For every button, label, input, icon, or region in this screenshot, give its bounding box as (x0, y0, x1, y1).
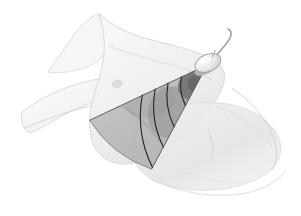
softening-wash (0, 0, 301, 216)
ultrasound-illustration-canvas: Ultrasound Examination of the Chest Tran… (0, 0, 301, 216)
illustration-svg (0, 0, 301, 216)
